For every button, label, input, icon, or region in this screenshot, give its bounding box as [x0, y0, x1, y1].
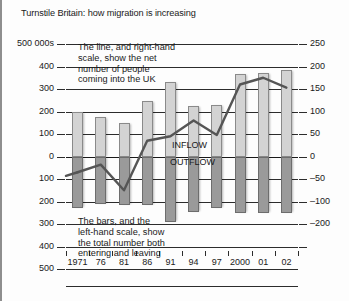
chart-title: Turnstile Britain: how migration is incr…: [21, 8, 196, 18]
right-axis-label: 250: [310, 38, 325, 48]
left-axis-tick: [57, 89, 65, 90]
left-axis-label: 0: [2, 151, 54, 161]
left-axis-label: 400: [2, 61, 54, 71]
left-axis-tick: [57, 247, 65, 248]
right-axis-tick: [299, 44, 307, 45]
right-axis-label: 100: [310, 106, 325, 116]
left-axis-label: 200: [2, 106, 54, 116]
x-axis-label-2000: 2000: [230, 257, 250, 267]
right-axis-tick: [299, 224, 307, 225]
left-axis-label: 500 000s: [2, 38, 54, 48]
right-axis-label: 150: [310, 83, 325, 93]
x-axis-label-01: 01: [258, 257, 268, 267]
x-axis-label-97: 97: [212, 257, 222, 267]
left-axis-label: 500: [2, 263, 54, 273]
right-axis-tick: [299, 247, 307, 248]
x-axis-line: [66, 286, 298, 287]
right-axis-tick: [299, 112, 307, 113]
left-axis-tick: [57, 179, 65, 180]
left-axis-tick: [57, 67, 65, 68]
left-axis-label: 300: [2, 83, 54, 93]
left-axis-label: 300: [2, 218, 54, 228]
left-axis-label: 100: [2, 128, 54, 138]
right-axis-tick: [299, 157, 307, 158]
right-axis-tick: [299, 202, 307, 203]
x-axis-tick: [275, 251, 276, 256]
net-migration-lead-in: [66, 172, 78, 176]
left-axis-tick: [57, 44, 65, 45]
left-axis-tick: [57, 202, 65, 203]
x-axis-label-02: 02: [281, 257, 291, 267]
right-axis-label: –200: [310, 218, 330, 228]
right-axis-tick: [299, 179, 307, 180]
left-axis-tick: [57, 224, 65, 225]
line-annotation: The line, and right-hand scale, show the…: [78, 42, 175, 85]
bars-annotation: The bars, and the left-hand scale, show …: [78, 216, 165, 259]
net-migration-polyline: [78, 78, 287, 191]
right-axis-label: –50: [310, 173, 325, 183]
outflow-label: OUTFLOW: [170, 157, 215, 167]
right-axis-label: 0: [310, 151, 315, 161]
right-axis-label: –100: [310, 196, 330, 206]
x-axis-tick: [298, 251, 299, 256]
right-axis-label: 50: [310, 128, 320, 138]
left-axis-label: 100: [2, 173, 54, 183]
x-axis-label-94: 94: [189, 257, 199, 267]
x-axis-tick: [205, 251, 206, 256]
left-axis-tick: [57, 269, 65, 270]
inflow-label: INFLOW: [172, 140, 207, 150]
migration-chart-figure: Turnstile Britain: how migration is incr…: [0, 0, 349, 301]
left-axis-tick: [57, 134, 65, 135]
left-axis-tick: [57, 157, 65, 158]
left-axis-label: 400: [2, 241, 54, 251]
left-axis-label: 200: [2, 196, 54, 206]
right-axis-label: 200: [310, 61, 325, 71]
x-axis-tick: [252, 251, 253, 256]
x-axis-tick: [182, 251, 183, 256]
x-axis-tick: [228, 251, 229, 256]
right-axis-tick: [299, 89, 307, 90]
x-axis-label-91: 91: [165, 257, 175, 267]
right-axis-tick: [299, 134, 307, 135]
left-axis-tick: [57, 112, 65, 113]
x-axis-tick: [66, 251, 67, 256]
right-axis-tick: [299, 67, 307, 68]
